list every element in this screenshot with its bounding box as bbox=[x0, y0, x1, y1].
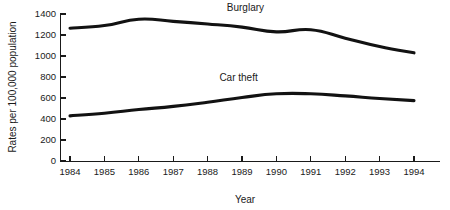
y-axis-group: 0200400600800100012001400 Rates per 100,… bbox=[7, 8, 66, 166]
y-tick-label: 400 bbox=[40, 113, 56, 124]
y-tick-label: 600 bbox=[40, 92, 56, 103]
crime-rates-line-chart: 0200400600800100012001400 Rates per 100,… bbox=[0, 0, 450, 210]
x-tick-label: 1992 bbox=[335, 166, 356, 177]
x-tick-label: 1994 bbox=[403, 166, 424, 177]
chart-canvas: 0200400600800100012001400 Rates per 100,… bbox=[0, 0, 450, 210]
series-label-car-theft: Car theft bbox=[219, 72, 258, 83]
series-line-burglary bbox=[70, 19, 414, 53]
x-axis-tick-labels: 1984198519861987198819891990199119921993… bbox=[59, 166, 424, 177]
series-label-group: BurglaryCar theft bbox=[219, 2, 264, 83]
x-tick-label: 1985 bbox=[94, 166, 115, 177]
y-axis-tick-labels: 0200400600800100012001400 bbox=[35, 8, 56, 166]
y-tick-label: 800 bbox=[40, 71, 56, 82]
y-tick-label: 1400 bbox=[35, 8, 56, 19]
series-line-car-theft bbox=[70, 93, 414, 116]
y-tick-label: 1000 bbox=[35, 50, 56, 61]
x-tick-label: 1987 bbox=[163, 166, 184, 177]
y-axis-ticks bbox=[61, 14, 67, 161]
y-tick-label: 0 bbox=[51, 155, 56, 166]
x-tick-label: 1986 bbox=[128, 166, 149, 177]
x-tick-label: 1984 bbox=[59, 166, 80, 177]
x-axis-ticks bbox=[70, 156, 414, 162]
series-label-burglary: Burglary bbox=[227, 2, 264, 13]
y-tick-label: 200 bbox=[40, 134, 56, 145]
x-tick-label: 1993 bbox=[369, 166, 390, 177]
y-axis-title: Rates per 100,000 population bbox=[7, 21, 18, 152]
x-tick-label: 1991 bbox=[300, 166, 321, 177]
x-axis-title: Year bbox=[235, 194, 256, 205]
data-series-group bbox=[70, 19, 414, 116]
y-tick-label: 1200 bbox=[35, 29, 56, 40]
x-tick-label: 1990 bbox=[266, 166, 287, 177]
x-axis-group: 1984198519861987198819891990199119921993… bbox=[59, 156, 440, 205]
x-tick-label: 1988 bbox=[197, 166, 218, 177]
x-tick-label: 1989 bbox=[231, 166, 252, 177]
